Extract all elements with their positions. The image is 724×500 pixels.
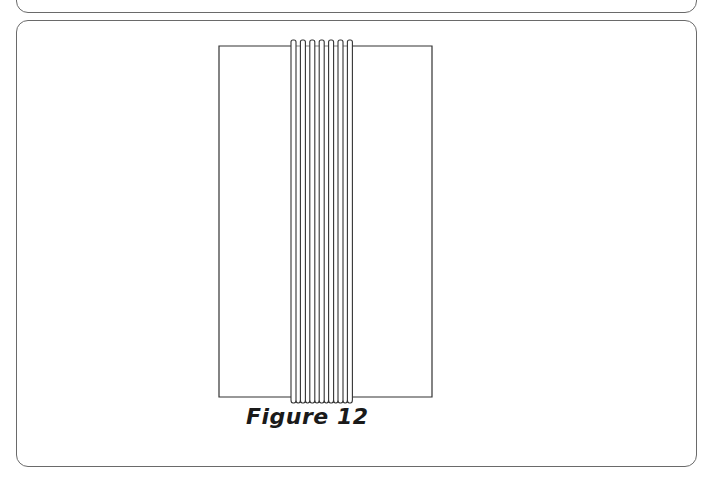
strands <box>291 40 352 403</box>
frame-rectangle <box>219 46 432 397</box>
figure-caption: Figure 12 <box>246 404 369 429</box>
frame-outline <box>219 46 432 397</box>
strand-loops <box>291 40 352 403</box>
